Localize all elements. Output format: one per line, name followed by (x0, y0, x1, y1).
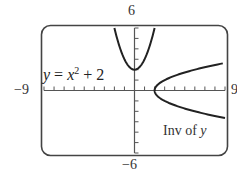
eq-equals: = (50, 66, 67, 83)
inv-y: y (200, 123, 206, 138)
x-min-label: −9 (14, 83, 29, 97)
y-max-label: 6 (128, 4, 135, 18)
equation-label: y = x2 + 2 (43, 66, 104, 83)
x-max-label: 9 (231, 83, 237, 97)
graph-canvas (0, 0, 237, 174)
y-min-label: −6 (122, 158, 137, 172)
inv-text: Inv of (163, 123, 200, 138)
inverse-label: Inv of y (163, 124, 207, 138)
eq-plus: + 2 (79, 66, 104, 83)
curves (114, 28, 225, 118)
